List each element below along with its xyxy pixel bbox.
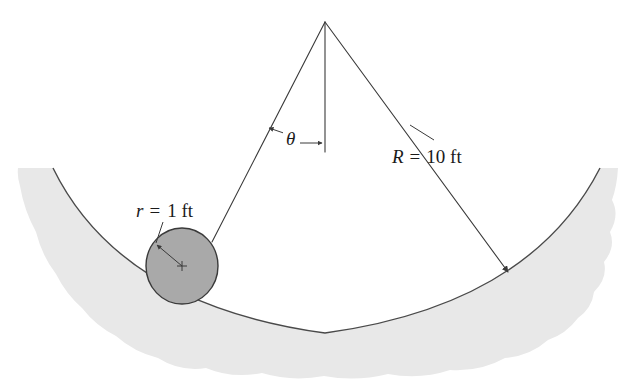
figure-canvas: R=10 ft r=1 ft θ: [0, 0, 637, 385]
large-radius-symbol: R: [391, 146, 404, 167]
small-radius-equals: =: [149, 200, 160, 221]
large-radius-label: R=10 ft: [391, 146, 462, 167]
diagram-svg: R=10 ft r=1 ft θ: [0, 0, 637, 385]
large-radius-value: 10 ft: [426, 146, 462, 167]
small-radius-value: 1 ft: [167, 200, 194, 221]
angle-theta-label: θ: [286, 128, 295, 149]
small-radius-symbol: r: [136, 200, 144, 221]
large-radius-equals: =: [410, 146, 421, 167]
